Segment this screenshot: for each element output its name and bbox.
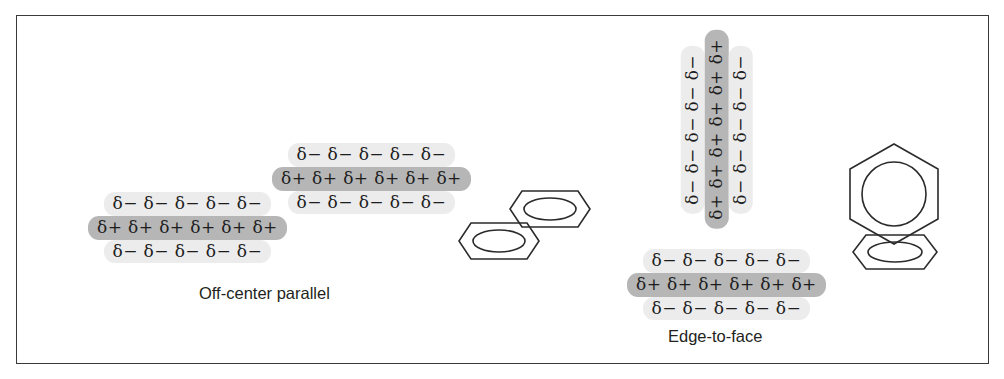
caption-off-center-parallel: Off-center parallel: [199, 284, 330, 303]
benzene-ring-edge-to-face-lower: [851, 233, 939, 271]
charge-row-negative: δ− δ− δ− δ− δ−: [643, 297, 811, 321]
caption-edge-to-face: Edge-to-face: [668, 327, 762, 346]
charge-row-positive: δ+ δ+ δ+ δ+ δ+ δ+: [627, 273, 826, 297]
figure-border: [16, 15, 989, 364]
charge-stack-off-center-lower: δ− δ− δ− δ− δ− δ+ δ+ δ+ δ+ δ+ δ+ δ− δ− δ…: [88, 192, 287, 263]
charge-row-positive: δ+ δ+ δ+ δ+ δ+ δ+: [88, 216, 287, 240]
charge-column-positive: δ+ δ+ δ+ δ+ δ+ δ+: [705, 30, 729, 229]
charge-stack-off-center-upper: δ− δ− δ− δ− δ− δ+ δ+ δ+ δ+ δ+ δ+ δ− δ− δ…: [272, 143, 471, 214]
charge-row-negative: δ− δ− δ− δ− δ−: [288, 143, 456, 167]
charge-row-negative: δ− δ− δ− δ− δ−: [288, 191, 456, 215]
benzene-ring-edge-to-face-upper: [846, 142, 942, 246]
charge-row-negative: δ− δ− δ− δ− δ−: [104, 240, 272, 264]
charge-stack-edge-to-face-horizontal: δ− δ− δ− δ− δ− δ+ δ+ δ+ δ+ δ+ δ+ δ− δ− δ…: [627, 249, 826, 320]
charge-column-negative: δ− δ− δ− δ− δ−: [729, 46, 753, 214]
charge-row-negative: δ− δ− δ− δ− δ−: [643, 249, 811, 273]
charge-row-negative: δ− δ− δ− δ− δ−: [104, 192, 272, 216]
pi-stacking-figure: δ− δ− δ− δ− δ− δ+ δ+ δ+ δ+ δ+ δ+ δ− δ− δ…: [0, 0, 1004, 379]
charge-stack-edge-to-face-vertical: δ− δ− δ− δ− δ− δ+ δ+ δ+ δ+ δ+ δ+ δ− δ− δ…: [681, 30, 752, 229]
charge-column-negative: δ− δ− δ− δ− δ−: [681, 46, 705, 214]
benzene-ring-off-center-lower: [457, 221, 541, 261]
charge-row-positive: δ+ δ+ δ+ δ+ δ+ δ+: [272, 167, 471, 191]
